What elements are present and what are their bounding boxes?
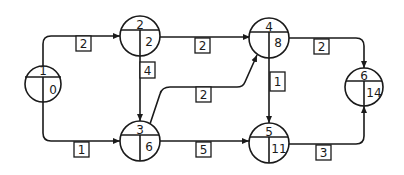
weight-box-4-5: 1 xyxy=(270,72,285,91)
weight-box-2-4: 2 xyxy=(195,38,210,53)
weight-box-5-6: 3 xyxy=(316,145,331,160)
svg-text:2: 2 xyxy=(145,35,153,49)
weight-box-2-3: 4 xyxy=(140,62,155,78)
svg-text:1: 1 xyxy=(78,143,86,157)
weight-box-3-4: 2 xyxy=(196,87,211,102)
network-diagram: 2 1 4 2 2 5 1 2 3 1 0 xyxy=(0,0,404,175)
node-6: 6 14 xyxy=(345,68,383,106)
weight-box-3-5: 5 xyxy=(196,142,211,157)
svg-text:5: 5 xyxy=(265,125,273,139)
svg-text:4: 4 xyxy=(144,64,152,78)
svg-text:11: 11 xyxy=(271,142,286,156)
weight-box-4-6: 2 xyxy=(314,39,329,54)
svg-text:1: 1 xyxy=(39,64,47,78)
svg-text:2: 2 xyxy=(80,37,88,51)
svg-text:4: 4 xyxy=(265,20,273,34)
svg-text:6: 6 xyxy=(145,140,153,154)
svg-text:8: 8 xyxy=(274,36,282,50)
edge-1-3 xyxy=(43,102,120,141)
svg-text:1: 1 xyxy=(274,75,282,89)
node-4: 4 8 xyxy=(249,18,289,58)
svg-text:2: 2 xyxy=(318,40,326,54)
svg-text:5: 5 xyxy=(200,143,208,157)
node-2: 2 2 xyxy=(120,16,160,56)
node-5: 5 11 xyxy=(249,123,289,163)
node-1: 1 0 xyxy=(25,64,61,102)
svg-text:2: 2 xyxy=(199,39,207,53)
svg-text:0: 0 xyxy=(49,83,57,97)
svg-text:3: 3 xyxy=(320,146,328,160)
svg-text:2: 2 xyxy=(200,88,208,102)
weight-box-1-3: 1 xyxy=(74,142,89,157)
svg-text:2: 2 xyxy=(136,18,144,32)
weight-box-1-2: 2 xyxy=(76,36,91,51)
svg-text:3: 3 xyxy=(136,123,144,137)
node-3: 3 6 xyxy=(120,121,160,161)
svg-text:14: 14 xyxy=(366,86,381,100)
svg-text:6: 6 xyxy=(360,69,368,83)
edge-5-6 xyxy=(289,106,364,144)
